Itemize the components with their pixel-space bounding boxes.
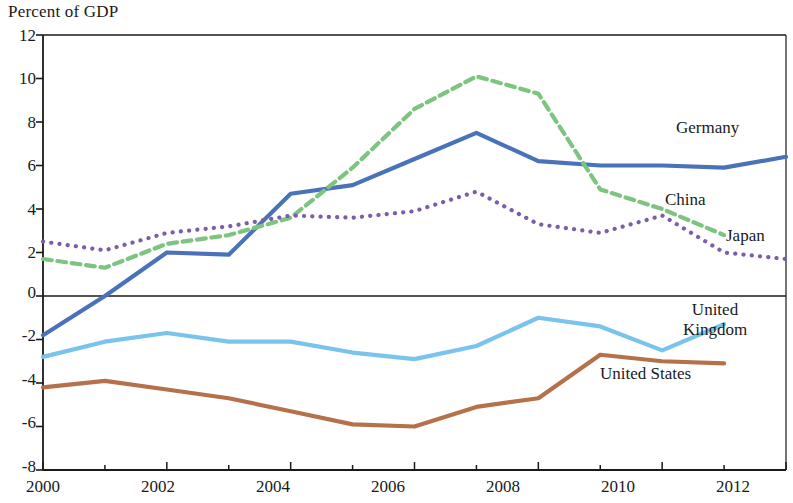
y-tick-label-neg6: -6: [2, 414, 36, 431]
plot-area: [0, 0, 793, 503]
series-label-germany: Germany: [676, 118, 739, 137]
x-tick-marks: [43, 462, 786, 470]
series-label-uk-line1: United: [660, 300, 770, 320]
series-line-united-kingdom: [43, 318, 724, 359]
y-tick-label-neg4: -4: [2, 371, 36, 388]
y-tick-label-0: 0: [2, 284, 36, 301]
x-tick-label-2008: 2008: [468, 478, 538, 495]
y-tick-label-neg8: -8: [2, 458, 36, 475]
x-tick-label-2006: 2006: [353, 478, 423, 495]
y-tick-label-neg2: -2: [2, 327, 36, 344]
chart-container: Percent of GDP 12 10 8 6 4 2 0 -2 -4 -6 …: [0, 0, 793, 503]
series-label-united-states: United States: [600, 364, 691, 383]
x-tick-label-2000: 2000: [8, 478, 78, 495]
series-label-china: China: [665, 190, 706, 209]
y-tick-label-8: 8: [2, 114, 36, 131]
y-tick-label-6: 6: [2, 157, 36, 174]
y-tick-label-4: 4: [2, 201, 36, 218]
x-tick-label-2002: 2002: [123, 478, 193, 495]
series-label-japan: Japan: [726, 226, 765, 245]
series-label-united-kingdom: United Kingdom: [660, 300, 770, 340]
y-tick-label-12: 12: [2, 27, 36, 44]
y-tick-label-10: 10: [2, 70, 36, 87]
y-tick-label-2: 2: [2, 244, 36, 261]
y-tick-marks: [36, 35, 43, 470]
x-tick-label-2012: 2012: [698, 478, 768, 495]
x-tick-label-2004: 2004: [238, 478, 308, 495]
series-label-uk-line2: Kingdom: [660, 320, 770, 340]
x-tick-label-2010: 2010: [583, 478, 653, 495]
